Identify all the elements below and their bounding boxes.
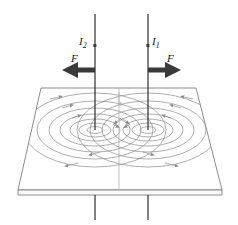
physics-diagram: I2 I1 F F — [0, 0, 238, 225]
current-marker-left — [93, 44, 96, 47]
plane-edge-face — [18, 190, 222, 195]
labels: I2 I1 F F — [70, 35, 174, 64]
plane-top-face — [18, 88, 222, 190]
label-current-left: I2 — [78, 35, 87, 50]
force-arrow-left — [62, 62, 95, 78]
label-force-left: F — [70, 52, 78, 64]
label-current-right: I1 — [151, 35, 160, 50]
force-arrow-right — [148, 62, 181, 78]
label-force-right: F — [166, 52, 174, 64]
diagram-canvas: I2 I1 F F — [0, 0, 238, 225]
current-marker-right — [146, 44, 149, 47]
